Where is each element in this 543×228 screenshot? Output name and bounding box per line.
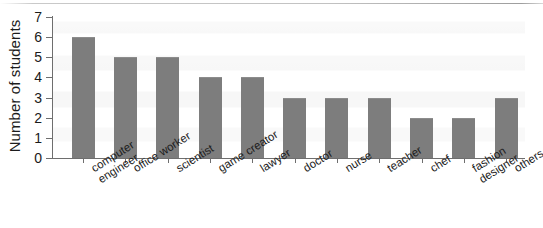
x-category-label: office worker (131, 164, 138, 175)
x-tick-mark (252, 159, 253, 163)
y-tick-mark (46, 77, 52, 78)
x-category-label: computerengineer (89, 164, 102, 185)
x-category-label-line: engineer (96, 175, 103, 186)
x-tick-mark (168, 159, 169, 163)
x-tick-mark (83, 159, 84, 163)
x-tick-mark (295, 159, 296, 163)
y-tick-mark (46, 98, 52, 99)
x-category-label: nurse (343, 164, 350, 175)
x-category-label-line: game creator (216, 164, 223, 175)
x-category-label: teacher (385, 164, 392, 175)
x-category-label: doctor (301, 164, 308, 175)
y-tick-mark (46, 57, 52, 58)
x-tick-mark (337, 159, 338, 163)
x-category-label: others (512, 164, 519, 175)
bar (368, 98, 391, 158)
y-tick-label: 3 (0, 91, 42, 105)
x-category-label-line: scientist (174, 164, 181, 175)
x-category-label-line: computer (89, 164, 96, 175)
y-tick-label: 6 (0, 30, 42, 44)
x-category-label-line: fashion (470, 164, 477, 175)
y-tick-mark (46, 138, 52, 139)
x-category-label: chef (428, 164, 435, 175)
x-category-label: scientist (174, 164, 181, 175)
y-tick-mark (46, 158, 52, 159)
y-tick-mark (46, 37, 52, 38)
y-tick-label: 5 (0, 50, 42, 64)
x-category-label-line: lawyer (258, 164, 265, 175)
x-tick-mark (422, 159, 423, 163)
y-tick-label: 7 (0, 10, 42, 24)
bar (72, 37, 95, 158)
x-tick-mark (210, 159, 211, 163)
y-tick-label: 0 (0, 151, 42, 165)
page-top-rule (0, 3, 543, 4)
y-tick-mark (46, 17, 52, 18)
bar (452, 118, 475, 158)
x-category-label: game creator (216, 164, 223, 175)
y-tick-label: 1 (0, 131, 42, 145)
x-tick-mark (379, 159, 380, 163)
y-tick-mark (46, 118, 52, 119)
bar-chart: Number of students 01234567 computerengi… (0, 0, 543, 228)
x-category-label-line: doctor (301, 164, 308, 175)
x-category-label-line: teacher (385, 164, 392, 175)
y-tick-label: 2 (0, 111, 42, 125)
y-axis-line (52, 16, 53, 159)
x-category-label-line: others (512, 164, 519, 175)
x-category-label-line: chef (428, 164, 435, 175)
y-tick-label: 4 (0, 70, 42, 84)
x-category-label: lawyer (258, 164, 265, 175)
x-category-label-line: designer (476, 175, 483, 186)
plot-area (52, 17, 525, 158)
x-category-label: fashiondesigner (470, 164, 483, 185)
x-category-label-line: nurse (343, 164, 350, 175)
x-category-label-line: office worker (131, 164, 138, 175)
x-tick-mark (464, 159, 465, 163)
